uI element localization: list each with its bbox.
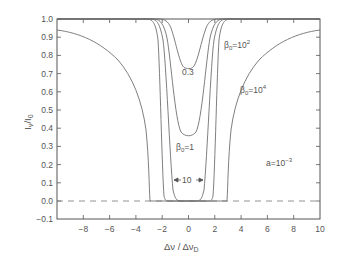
line-chart: 1.0 0.9 0.8 0.7 0.6 0.5 0.4 0.3 0.2 0.1 … — [0, 0, 337, 263]
y-tick-labels: 1.0 0.9 0.8 0.7 0.6 0.5 0.4 0.3 0.2 0.1 … — [36, 14, 53, 224]
curve-beta-0.3 — [57, 19, 320, 69]
label-beta-100: β0=102 — [224, 39, 251, 51]
y-tick-label: 0.0 — [41, 196, 53, 206]
curves — [57, 19, 320, 201]
y-axis-label: Iν/I0 — [22, 114, 34, 129]
x-axis-label: Δν / ΔνD — [164, 241, 199, 253]
plot-frame — [57, 19, 320, 219]
label-beta-1: β0=1 — [176, 142, 194, 153]
y-tick-label: 0.4 — [41, 123, 53, 133]
x-tick-label: −2 — [157, 224, 167, 234]
x-tick-label: 10 — [315, 224, 325, 234]
label-beta-10: 10 — [182, 175, 192, 185]
curve-beta-1 — [57, 19, 320, 136]
y-tick-label: 0.3 — [41, 141, 53, 151]
y-tick-label: 0.7 — [41, 69, 53, 79]
label-beta-0.3: 0.3 — [182, 67, 194, 77]
x-tick-label: 6 — [265, 224, 270, 234]
x-tick-labels: −8 −6 −4 −2 0 2 4 6 8 10 — [78, 224, 325, 234]
x-tick-label: 0 — [186, 224, 191, 234]
x-tick-label: −4 — [131, 224, 141, 234]
y-tick-label: 0.8 — [41, 50, 53, 60]
curve-beta-10 — [57, 19, 320, 201]
x-tick-label: −8 — [78, 224, 88, 234]
y-tick-label: 0.5 — [41, 105, 53, 115]
x-tick-label: 8 — [291, 224, 296, 234]
x-axis-ticks — [83, 19, 293, 219]
x-tick-label: −6 — [105, 224, 115, 234]
label-beta-10000: β0=104 — [240, 84, 267, 96]
svg-text:Δν / ΔνD: Δν / ΔνD — [164, 241, 199, 253]
y-tick-label: 0.1 — [41, 178, 53, 188]
label-damping-a: a=10−3 — [266, 157, 293, 168]
x-tick-label: 4 — [239, 224, 244, 234]
curve-beta-100 — [57, 19, 320, 201]
y-tick-label: 0.9 — [41, 32, 53, 42]
svg-text:Iν/I0: Iν/I0 — [22, 114, 34, 129]
y-tick-label: 0.2 — [41, 160, 53, 170]
y-axis-ticks — [57, 19, 320, 201]
y-tick-label: −0.1 — [36, 214, 53, 224]
y-tick-label: 1.0 — [41, 14, 53, 24]
y-tick-label: 0.6 — [41, 87, 53, 97]
x-tick-label: 2 — [212, 224, 217, 234]
